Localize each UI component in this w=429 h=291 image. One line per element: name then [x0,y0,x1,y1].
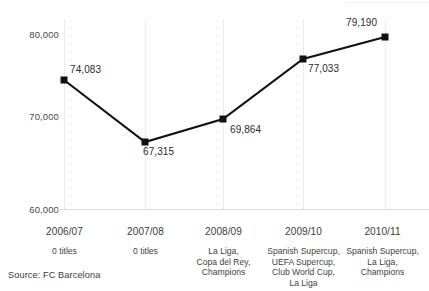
data-label-2008-09: 69,864 [230,124,261,135]
data-point-2010-11 [382,34,389,41]
data-point-2007-08 [142,139,149,146]
x-label-season-2010-11: 2010/11 [336,226,429,237]
x-axis-column-2010-11: 2010/11 Spanish Supercup, La Liga, Champ… [336,226,429,278]
x-label-titles-2010-11: Spanish Supercup, La Liga, Champions [336,246,429,278]
data-label-2010-11: 79,190 [346,17,377,28]
data-point-2009-10 [300,56,307,63]
source-note: Source: FC Barcelona [8,270,100,280]
data-point-2008-09 [220,116,227,123]
title-line: La Liga, [336,257,429,268]
title-line: Champions [336,267,429,278]
title-line: Spanish Supercup, [336,246,429,257]
data-point-2006-07 [61,77,68,84]
data-label-2007-08: 67,315 [143,146,174,157]
title-line: La Liga [250,278,357,289]
series-line [64,37,385,142]
data-label-2006-07: 74,083 [70,64,101,75]
data-label-2009-10: 77,033 [308,63,339,74]
attendance-line-chart: 80,000 70,000 60,000 74,083 67,315 69,86… [0,0,429,291]
